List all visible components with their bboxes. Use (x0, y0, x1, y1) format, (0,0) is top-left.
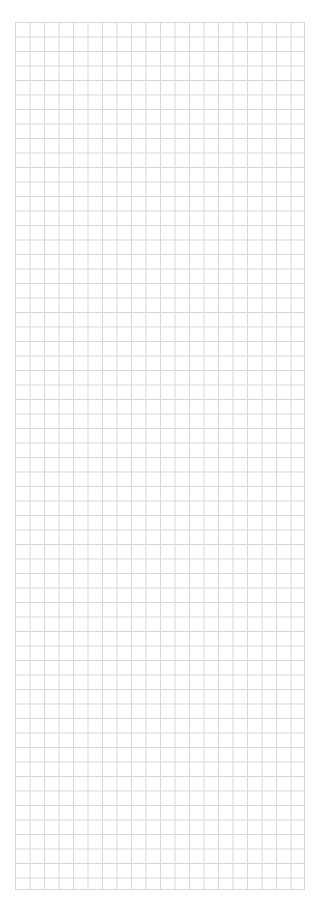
grid-canvas[interactable] (15, 22, 305, 890)
app-root (0, 0, 321, 919)
canvas-content (15, 22, 305, 890)
